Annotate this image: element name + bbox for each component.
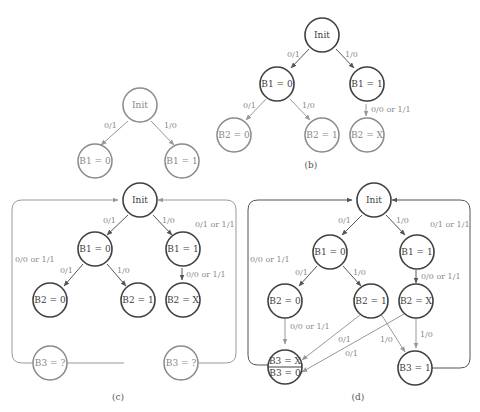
node-label: B1 = 0	[261, 79, 293, 89]
node-label: B1 = 1	[166, 156, 197, 166]
node-label: B2 = X	[351, 130, 384, 140]
node-label: B1 = 1	[401, 247, 432, 257]
edge-label: 0/1 or 1/1	[195, 220, 234, 229]
caption-d: (d)	[352, 392, 365, 402]
node-label: B1 = 0	[79, 244, 111, 254]
node-label: B2 = 0	[218, 130, 250, 140]
node-label: B2 = 1	[306, 130, 337, 140]
edge-label: 1/0	[353, 268, 366, 277]
node-label: B3 = 0	[269, 368, 301, 378]
edge-label: 0/1	[104, 121, 117, 130]
node-label: B2 = 1	[355, 296, 386, 306]
node-label: B3 = ?	[35, 358, 66, 368]
node-label: B1 = 0	[79, 156, 111, 166]
caption-b: (b)	[305, 160, 318, 170]
node-label: B3 = 1	[399, 363, 430, 373]
node-label: Init	[366, 195, 382, 205]
edge-label: 0/0 or 1/1	[186, 270, 225, 279]
edge-label: 0/0 or 1/1	[421, 272, 460, 281]
edge-label: 1/0	[345, 50, 358, 59]
node-label: B2 = 1	[122, 295, 153, 305]
edge-label: 0/1	[338, 335, 351, 344]
node-label: B1 = 1	[351, 79, 382, 89]
edge-label: 0/0 or 1/1	[290, 322, 329, 331]
node-label: B2 = 0	[34, 295, 66, 305]
edge-label: 0/1	[103, 216, 116, 225]
node-label: B3 = X	[269, 356, 302, 366]
node-label: Init	[314, 30, 330, 40]
node-label: B2 = X	[167, 295, 200, 305]
state-diagram-figure: 0/1 1/0 Init B1 = 0 B1 = 1 (a) 0/1 1/0 0…	[0, 0, 480, 412]
edge-label: 1/0	[420, 330, 433, 339]
edge-label: 0/1	[338, 216, 351, 225]
edge-label: 0/1 or 1/1	[430, 220, 469, 229]
edge-d-b3-x0-init	[248, 200, 352, 365]
edge-label: 0/1	[287, 50, 300, 59]
edge-label: 0/0 or 1/1	[371, 105, 410, 114]
node-label: B2 = 0	[269, 296, 301, 306]
edge-label: 1/0	[396, 216, 409, 225]
node-label: B1 = 1	[167, 244, 198, 254]
edge-label: 1/0	[164, 121, 177, 130]
node-label: B3 = ?	[166, 358, 197, 368]
edge-label: 0/1	[295, 268, 308, 277]
edge-label: 0/1	[60, 266, 73, 275]
edge-label: 1/0	[162, 216, 175, 225]
panel-b: 0/1 1/0 0/1 1/0 0/0 or 1/1 Init B1 = 0 B…	[217, 18, 410, 170]
caption-c: (c)	[112, 392, 124, 402]
node-label: Init	[132, 195, 148, 205]
edge-label: 0/0 or 1/1	[250, 255, 289, 264]
edge-label: 1/0	[380, 335, 393, 344]
node-label: B1 = 0	[314, 247, 346, 257]
panel-d: 0/0 or 1/1 0/1 or 1/1 0/1 1/0 0/1 1/0 0/…	[248, 183, 470, 402]
edge-label: 0/1	[345, 349, 358, 358]
node-label: Init	[132, 100, 148, 110]
node-label: B2 = X	[400, 296, 433, 306]
panel-c: 0/0 or 1/1 0/1 or 1/1 0/1 1/0 0/1 1/0 0/…	[12, 183, 236, 402]
edge-label: 0/0 or 1/1	[15, 255, 54, 264]
edge-label: 0/1	[243, 101, 256, 110]
edge-label: 1/0	[117, 266, 130, 275]
edge-label: 1/0	[302, 101, 315, 110]
